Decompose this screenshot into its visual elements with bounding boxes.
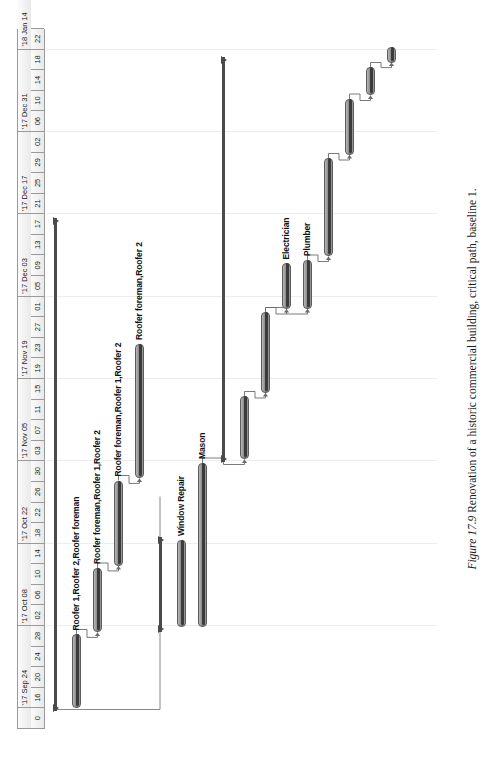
timescale-week-cell: '17 Nov 05 <box>18 378 31 460</box>
timescale-day-cell: 22 <box>31 28 44 49</box>
gantt-task-bar[interactable] <box>198 463 207 628</box>
timescale-day-cell: 09 <box>31 254 44 275</box>
gantt-task-bar[interactable] <box>282 263 291 309</box>
task-resource-label: Roofer foreman,Roofer 2 <box>134 242 144 340</box>
timescale-day-cell: 20 <box>31 666 44 687</box>
timescale-day-cell: 10 <box>31 563 44 584</box>
timescale-day-cell: 30 <box>31 460 44 481</box>
timescale-week-cell-stub <box>18 707 31 728</box>
task-resource-label: Roofer foreman,Roofer 1,Roofer 2 <box>92 430 102 564</box>
gantt-task-bar[interactable] <box>324 158 333 256</box>
timescale-header: '17 Sep 24'17 Oct 08'17 Oct 22'17 Nov 05… <box>17 29 45 729</box>
timescale-day-cell: 02 <box>31 130 44 151</box>
gantt-summary-bar[interactable] <box>53 218 58 712</box>
gantt-task-bar[interactable] <box>345 99 354 155</box>
task-progress-indicator <box>76 634 79 706</box>
gantt-summary-bar[interactable] <box>221 57 226 462</box>
gantt-task-bar[interactable] <box>72 634 81 708</box>
task-progress-indicator <box>286 263 289 307</box>
timescale-day-cell: 28 <box>31 625 44 646</box>
timescale-day-cell: 06 <box>31 583 44 604</box>
timescale-day-cell: 0 <box>31 707 44 728</box>
dependency-link <box>371 62 392 67</box>
timescale-day-cell: 02 <box>31 604 44 625</box>
timescale-day-cell: 25 <box>31 172 44 193</box>
timescale-day-cell: 17 <box>31 213 44 234</box>
dependency-arrowhead-icon <box>116 565 121 569</box>
timescale-week-cell: '17 Sep 24 <box>18 625 31 707</box>
summary-cap-left-icon <box>221 454 227 462</box>
timescale-day-cell: 07 <box>31 419 44 440</box>
timescale-day-cell: 26 <box>31 480 44 501</box>
task-progress-indicator <box>307 260 310 307</box>
timescale-day-cell: 15 <box>31 378 44 399</box>
timescale-week-cell: '17 Nov 19 <box>18 295 31 377</box>
gantt-task-bar[interactable] <box>240 396 249 459</box>
gantt-task-bar[interactable] <box>114 480 123 565</box>
timescale-day-cell: 24 <box>31 645 44 666</box>
task-progress-indicator <box>202 463 205 626</box>
gantt-task-bar[interactable] <box>177 540 186 628</box>
timescale-day-cell: 21 <box>31 192 44 213</box>
task-resource-label: Roofer 1,Roofer 2,Roofer foreman <box>71 496 81 630</box>
task-progress-indicator <box>349 99 352 153</box>
task-progress-indicator <box>97 568 100 630</box>
timescale-day-row: 0162024280206101418222630030711151923270… <box>31 30 44 728</box>
timescale-day-cell: 06 <box>31 110 44 131</box>
dependency-arrowhead-icon <box>305 309 310 313</box>
dependency-arrowhead-icon <box>137 478 142 482</box>
timescale-day-cell: 05 <box>31 275 44 296</box>
timescale-day-cell: 16 <box>31 686 44 707</box>
timescale-day-cell: 14 <box>31 542 44 563</box>
rotated-figure-wrapper: '17 Sep 24'17 Oct 08'17 Oct 22'17 Nov 05… <box>0 0 490 757</box>
timescale-day-cell: 29 <box>31 151 44 172</box>
task-progress-indicator <box>118 480 121 563</box>
gantt-task-bar[interactable] <box>93 568 102 632</box>
gantt-task-bar[interactable] <box>366 67 375 95</box>
gantt-task-bar[interactable] <box>303 260 312 309</box>
timescale-day-cell: 18 <box>31 48 44 69</box>
timescale-week-cell: '17 Dec 31 <box>18 48 31 130</box>
dependency-arrowhead-icon <box>389 62 394 66</box>
dependency-arrowhead-icon <box>263 393 268 397</box>
gantt-plot-area: Roofer 1,Roofer 2,Roofer foremanRoofer f… <box>45 29 437 729</box>
gantt-summary-bar[interactable] <box>158 536 163 632</box>
timescale-day-cell: 11 <box>31 398 44 419</box>
task-progress-indicator <box>265 312 268 391</box>
timescale-week-cell: '17 Dec 17 <box>18 130 31 212</box>
summary-cap-left-icon <box>53 704 59 712</box>
timescale-week-row: '17 Sep 24'17 Oct 08'17 Oct 22'17 Nov 05… <box>18 30 31 728</box>
dependency-arrowhead-icon <box>326 256 331 260</box>
task-resource-label: Roofer foreman,Roofer 1,Roofer 2 <box>113 342 123 476</box>
task-resource-label: Window Repair <box>176 475 186 535</box>
timescale-week-cell: '18 Jan 14 <box>18 0 31 48</box>
timescale-day-cell: 10 <box>31 89 44 110</box>
gantt-task-bar[interactable] <box>261 312 270 393</box>
task-progress-indicator <box>139 344 142 476</box>
summary-cap-right-icon <box>158 535 164 543</box>
gantt-task-bar[interactable] <box>135 344 144 478</box>
timescale-week-cell: '17 Oct 22 <box>18 460 31 542</box>
task-progress-indicator <box>244 396 247 457</box>
summary-bar-body <box>54 218 57 712</box>
timescale-day-cell: 23 <box>31 336 44 357</box>
timescale-day-cell: 14 <box>31 69 44 90</box>
dependency-link-layer <box>45 29 437 729</box>
summary-cap-left-icon <box>158 625 164 633</box>
timescale-day-cell: 01 <box>31 295 44 316</box>
timescale-day-cell: 03 <box>31 439 44 460</box>
gantt-task-bar[interactable] <box>387 46 396 62</box>
task-progress-indicator <box>370 67 373 93</box>
task-resource-label: Electrician <box>281 217 291 259</box>
timescale-week-cell: '17 Dec 03 <box>18 213 31 295</box>
timescale-day-cell: 27 <box>31 316 44 337</box>
summary-cap-right-icon <box>53 217 59 225</box>
dependency-arrowhead-icon <box>95 632 100 636</box>
timescale-day-cell: 13 <box>31 233 44 254</box>
timescale-day-cell: 22 <box>31 501 44 522</box>
task-progress-indicator <box>391 46 394 60</box>
gantt-chart: '17 Sep 24'17 Oct 08'17 Oct 22'17 Nov 05… <box>17 29 437 729</box>
task-progress-indicator <box>181 540 184 626</box>
timescale-week-cell: '17 Oct 08 <box>18 542 31 624</box>
dependency-arrowhead-icon <box>347 155 352 159</box>
